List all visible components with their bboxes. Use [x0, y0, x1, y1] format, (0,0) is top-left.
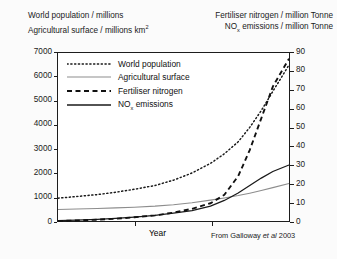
- legend-nox-post: emissions: [133, 99, 173, 109]
- left-axis-tick-label: 2000: [0, 168, 52, 177]
- credit-post: 2003: [277, 231, 296, 240]
- left-axis-tick-label: 3000: [0, 144, 52, 153]
- left-axis-title-superscript: 2: [145, 24, 148, 30]
- chart-figure: World population / millions Agricultural…: [0, 0, 337, 259]
- right-axis-tick-label: 20: [296, 179, 305, 188]
- left-axis-tick-label: 7000: [0, 47, 52, 56]
- left-axis-tick-label: 1000: [0, 192, 52, 201]
- legend-agricultural-surface: Agricultural surface: [67, 71, 190, 85]
- left-axis-title-line2: Agricultural surface / millions km2: [28, 22, 149, 36]
- right-axis-tick-mark: [290, 222, 294, 223]
- legend-label: Fertiliser nitrogen: [118, 86, 183, 96]
- legend-line-sample: [67, 86, 111, 96]
- left-axis-tick-label: 5000: [0, 95, 52, 104]
- legend-nox-pre: NO: [118, 99, 131, 109]
- left-axis-title-line2-text: Agricultural surface / millions km: [28, 25, 145, 34]
- right-axis-tick-label: 30: [296, 160, 305, 169]
- left-axis-title: World population / millions Agricultural…: [28, 11, 149, 36]
- series-nox-emissions: [58, 165, 289, 221]
- left-axis-tick-label: 0: [0, 217, 52, 226]
- right-axis-tick-label: 90: [296, 47, 305, 56]
- right-axis-tick-label: 80: [296, 65, 305, 74]
- right-axis-tick-label: 10: [296, 198, 305, 207]
- credit-pre: From Galloway: [211, 231, 263, 240]
- left-axis-tick-label: 4000: [0, 119, 52, 128]
- right-axis-tick-mark: [290, 71, 294, 72]
- right-axis-tick-mark: [290, 109, 294, 110]
- legend-label: Agricultural surface: [118, 72, 190, 82]
- right-axis-tick-mark: [290, 165, 294, 166]
- source-credit: From Galloway et al 2003: [211, 231, 295, 240]
- legend-fertiliser-nitrogen: Fertiliser nitrogen: [67, 84, 190, 98]
- x-axis-tick-mark: [212, 222, 213, 226]
- right-axis-tick-mark: [290, 184, 294, 185]
- right-axis-tick-mark: [290, 203, 294, 204]
- legend-world-population: World population: [67, 57, 190, 71]
- right-axis-tick-mark: [290, 90, 294, 91]
- right-axis-title-line2-post: emissions / million Tonne: [240, 22, 333, 31]
- credit-italic: et al: [263, 231, 277, 240]
- right-axis-tick-label: 60: [296, 103, 305, 112]
- left-axis-tick-label: 6000: [0, 71, 52, 80]
- right-axis-title-line2-pre: NO: [225, 22, 237, 31]
- right-axis-tick-label: 50: [296, 122, 305, 131]
- series-agricultural-surface: [58, 184, 289, 210]
- legend-line-sample: [67, 100, 111, 110]
- right-axis-tick-mark: [290, 52, 294, 53]
- right-axis-tick-label: 0: [296, 217, 301, 226]
- legend-label: World population: [118, 59, 181, 69]
- left-axis-title-line1: World population / millions: [28, 11, 149, 22]
- right-axis-title-line1: Fertiliser nitrogen / million Tonne: [183, 11, 333, 22]
- right-axis-tick-label: 40: [296, 141, 305, 150]
- left-axis-tick-mark: [54, 222, 57, 223]
- x-axis-label: Year: [149, 228, 166, 238]
- right-axis-title: Fertiliser nitrogen / million Tonne NOx …: [183, 11, 333, 35]
- legend-label: NOx emissions: [118, 99, 173, 111]
- chart-legend: World populationAgricultural surfaceFert…: [67, 57, 190, 111]
- x-axis-tick-mark: [135, 222, 136, 226]
- right-axis-tick-mark: [290, 128, 294, 129]
- right-axis-tick-mark: [290, 146, 294, 147]
- right-axis-title-line2: NOx emissions / million Tonne: [183, 22, 333, 35]
- legend-line-sample: [67, 72, 111, 82]
- legend-nox-emissions: NOx emissions: [67, 98, 190, 112]
- right-axis-tick-label: 70: [296, 84, 305, 93]
- legend-line-sample: [67, 59, 111, 69]
